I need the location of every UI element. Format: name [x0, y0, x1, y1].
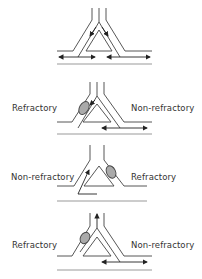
panel-2-left-label: Refractory [12, 103, 57, 113]
reentry-diagram [0, 0, 202, 279]
panel-3-right-label: Refractory [131, 172, 176, 182]
panel-3-left-label: Non-refractory [11, 172, 74, 182]
panel-4-left-label: Refractory [12, 240, 57, 250]
panel-1 [57, 8, 152, 64]
panel-4-right-label: Non-refractory [131, 240, 194, 250]
panel-2-right-label: Non-refractory [131, 103, 194, 113]
